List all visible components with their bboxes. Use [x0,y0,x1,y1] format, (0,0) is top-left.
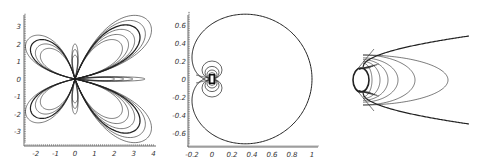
plot-3 [353,36,469,124]
x-tick-label: 0.8 [286,151,298,159]
lower-right-lobe [75,79,129,124]
ellipse-family-curves [353,36,469,124]
x-tick-label: -2 [32,150,40,158]
y-tick-label: 0.2 [175,58,187,66]
nested-ellipse [363,60,388,101]
parabola-lower [363,93,469,124]
nested-ellipse [363,61,380,98]
x-tick-label: 0.6 [266,151,278,159]
butterfly-curves [26,15,152,142]
y-tick-label: 3 [17,23,21,31]
y-tick-label: 0 [17,76,22,84]
nested-ellipse [363,55,415,105]
x-tick-label: 1 [310,151,314,159]
x-tick-labels: -2-101234 [32,150,155,158]
x-tick-label: 0.2 [226,151,238,159]
lower-right-lobe [75,79,135,129]
y-tick-labels: 0.60.40.20-0.2-0.4-0.6 [172,22,186,138]
figure: -2-101234 3210-1-2-3 -0.200.20.40.60.81 … [0,0,494,164]
x-tick-labels: -0.200.20.40.60.81 [185,151,314,159]
y-tick-label: 0.4 [175,40,186,48]
x-tick-label: 0 [73,150,78,158]
cardioid-curves [192,14,312,144]
x-tick-label: 4 [151,150,155,158]
y-tick-label: -0.4 [172,112,186,120]
y-tick-label: -2 [14,111,22,119]
y-tick-label: -0.6 [172,130,186,138]
x-tick-label: -1 [52,150,59,158]
upper-right-lobe [75,29,135,79]
y-tick-labels: 3210-1-2-3 [14,23,22,136]
y-tick-label: -0.2 [172,94,186,102]
x-tick-label: 3 [132,150,136,158]
y-tick-label: 0.6 [175,22,187,30]
x-tick-label: -0.2 [185,151,199,159]
y-tick-label: 2 [17,41,22,49]
y-tick-label: -3 [14,128,21,136]
x-tick-label: 0 [210,151,215,159]
y-tick-label: 0 [182,76,187,84]
plot-1: -2-101234 3210-1-2-3 [14,14,156,158]
x-tick-label: 0.4 [246,151,257,159]
y-tick-label: -1 [14,93,21,101]
y-tick-label: 1 [17,58,21,66]
origin-gap [211,76,214,83]
parabola-upper [363,36,469,67]
plot-2: -0.200.20.40.60.81 0.60.40.20-0.2-0.4-0.… [172,12,318,159]
upper-right-lobe [75,34,129,79]
x-tick-label: 2 [112,150,117,158]
x-tick-label: 1 [92,150,96,158]
